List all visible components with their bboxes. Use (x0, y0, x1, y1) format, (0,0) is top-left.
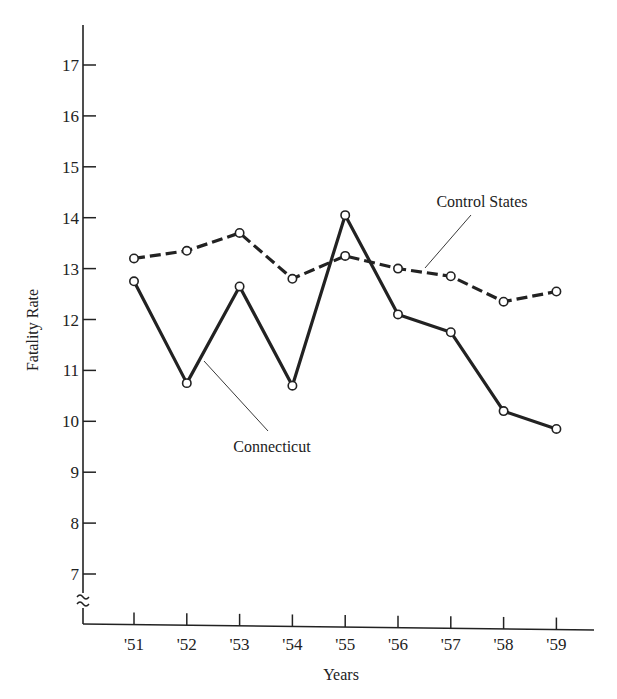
x-tick-label: '54 (282, 635, 303, 654)
series-connecticut (130, 211, 561, 433)
data-point-marker (394, 310, 402, 318)
x-tick-label: '52 (177, 635, 197, 654)
line-chart: 7891011121314151617 '51'52'53'54'55'56'5… (0, 0, 617, 699)
data-point-marker (499, 297, 507, 305)
series-layer (130, 211, 561, 433)
data-point-marker (341, 252, 349, 260)
data-point-marker (499, 407, 507, 415)
annotations: Control StatesConnecticut (204, 193, 528, 455)
x-axis: '51'52'53'54'55'56'57'58'59 (83, 613, 594, 654)
y-axis: 7891011121314151617 (62, 25, 96, 624)
y-tick-label: 15 (62, 158, 79, 177)
x-tick-label: '59 (546, 635, 566, 654)
data-point-marker (183, 379, 191, 387)
x-axis-title: Years (323, 666, 359, 683)
series-line (134, 233, 556, 302)
data-point-marker (288, 381, 296, 389)
series-label: Control States (436, 193, 527, 210)
y-tick-label: 14 (62, 209, 80, 228)
data-point-marker (130, 277, 138, 285)
series-control-states (130, 229, 561, 306)
x-tick-label: '58 (494, 635, 514, 654)
data-point-marker (130, 254, 138, 262)
axis-break-icon (77, 595, 89, 606)
y-tick-label: 8 (71, 514, 80, 533)
data-point-marker (447, 272, 455, 280)
y-axis-title: Fatality Rate (24, 289, 42, 371)
data-point-marker (394, 264, 402, 272)
data-point-marker (552, 287, 560, 295)
y-tick-label: 11 (63, 361, 79, 380)
data-point-marker (447, 328, 455, 336)
y-tick-label: 7 (71, 565, 80, 584)
data-point-marker (235, 229, 243, 237)
x-tick-label: '55 (335, 635, 355, 654)
data-point-marker (183, 247, 191, 255)
leader-line (425, 215, 471, 268)
data-point-marker (341, 211, 349, 219)
data-point-marker (235, 282, 243, 290)
data-point-marker (552, 425, 560, 433)
x-tick-label: '57 (441, 635, 462, 654)
data-point-marker (288, 275, 296, 283)
series-label: Connecticut (233, 438, 311, 455)
y-tick-label: 13 (62, 260, 79, 279)
x-tick-label: '53 (230, 635, 250, 654)
y-tick-label: 9 (71, 463, 80, 482)
x-axis-line (83, 624, 594, 630)
leader-line (204, 361, 268, 431)
y-tick-label: 16 (62, 107, 79, 126)
y-tick-label: 17 (62, 56, 80, 75)
x-tick-label: '51 (124, 635, 144, 654)
y-tick-label: 12 (62, 311, 79, 330)
x-tick-label: '56 (388, 635, 408, 654)
y-tick-label: 10 (62, 412, 79, 431)
